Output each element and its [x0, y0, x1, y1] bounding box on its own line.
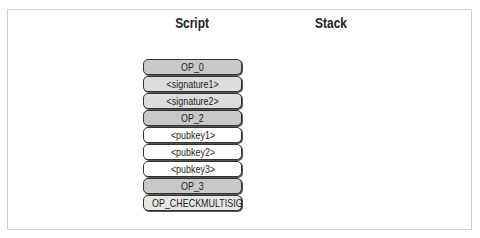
- script-item: <pubkey3>: [143, 161, 242, 177]
- script-item: OP_2: [143, 110, 242, 126]
- script-item: <signature1>: [143, 76, 242, 92]
- script-item: <pubkey2>: [143, 144, 242, 160]
- script-item-label: OP_2: [181, 111, 204, 125]
- script-item-label: OP_0: [181, 60, 204, 74]
- script-item: OP_CHECKMULTISIG: [143, 195, 242, 211]
- script-header: Script: [170, 15, 214, 31]
- script-item-label: <pubkey2>: [170, 145, 214, 159]
- script-item-label: OP_CHECKMULTISIG: [152, 196, 243, 210]
- script-item: OP_3: [143, 178, 242, 194]
- stack-header: Stack: [310, 15, 353, 31]
- script-column: OP_0 <signature1> <signature2> OP_2 <pub…: [143, 59, 242, 212]
- script-item-label: <signature2>: [166, 94, 218, 108]
- script-item: OP_0: [143, 59, 242, 75]
- script-item-label: OP_3: [181, 179, 204, 193]
- script-item-label: <pubkey3>: [170, 162, 214, 176]
- script-item-label: <signature1>: [166, 77, 218, 91]
- script-item: <pubkey1>: [143, 127, 242, 143]
- script-item: <signature2>: [143, 93, 242, 109]
- script-item-label: <pubkey1>: [170, 128, 214, 142]
